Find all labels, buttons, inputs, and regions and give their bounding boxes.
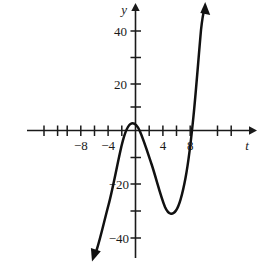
x-tick-label-minus8: −8 bbox=[74, 138, 88, 153]
y-tick-label-minus40: −40 bbox=[109, 231, 129, 246]
curve-arrowhead-lower-left bbox=[91, 248, 101, 262]
cubic-function-plot: 40 20 −20 −40 −8 −4 4 8 y t bbox=[0, 0, 259, 263]
x-axis-arrowhead bbox=[249, 126, 257, 134]
y-axis-arrowhead bbox=[131, 3, 139, 11]
y-tick-label-20: 20 bbox=[114, 77, 127, 92]
curve-arrowhead-upper-right bbox=[200, 2, 210, 15]
y-tick-label-40: 40 bbox=[114, 24, 127, 39]
graph-figure: 40 20 −20 −40 −8 −4 4 8 y t bbox=[0, 0, 259, 263]
x-tick-label-4: 4 bbox=[160, 138, 167, 153]
y-axis-label: y bbox=[119, 2, 127, 17]
x-axis-label: t bbox=[245, 138, 249, 153]
x-tick-label-minus4: −4 bbox=[101, 138, 115, 153]
